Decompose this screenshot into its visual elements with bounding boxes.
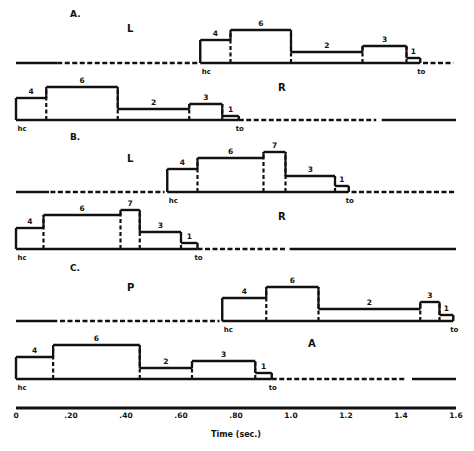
phase-label: 2 [163,357,168,366]
phase-label: 4 [242,287,247,296]
phase-label: 3 [308,165,313,174]
row-label: R [278,82,286,93]
row-label: A [308,338,316,349]
phase-label: 2 [324,41,329,50]
phase-label: 3 [427,291,432,300]
x-axis-title: Time (sec.) [211,430,261,439]
phase-label: 6 [228,147,233,156]
phase-label: 1 [444,304,449,313]
x-tick-label: 0 [13,411,18,420]
panel-title: B. [70,132,80,142]
panel-a: A.L46231hctoR46231hcto [16,9,456,133]
row-label: L [127,153,134,164]
chart-canvas: A.L46231hctoR46231hctoB.L46731hctoR46731… [0,0,474,451]
hc-label: hc [169,197,178,205]
x-axis-tick-labels: 0.20.40.60.801.01.21.41.6 [13,411,462,420]
phase-label: 4 [180,158,185,167]
phase-label: 1 [261,362,266,371]
x-axis: 0.20.40.60.801.01.21.41.6 Time (sec.) [13,408,462,439]
phase-label: 7 [128,199,133,208]
panel-title: A. [70,9,81,19]
phase-label: 1 [187,232,192,241]
row-r: R46231hcto [16,76,456,133]
x-tick-label: .80 [229,411,242,420]
hc-label: hc [202,68,211,76]
phase-label: 1 [411,47,416,56]
panel-b: B.L46731hctoR46731hcto [16,132,456,262]
phase-label: 2 [151,98,156,107]
row-a: A46231hcto [16,334,456,392]
to-label: to [346,197,354,205]
hc-label: hc [17,254,26,262]
phase-label: 6 [79,204,84,213]
hc-label: hc [224,326,233,334]
row-r: R46731hcto [16,199,456,262]
phase-label: 4 [213,29,218,38]
phase-label: 2 [367,298,372,307]
panel-title: C. [70,263,80,273]
phase-label: 3 [158,221,163,230]
phase-label: 6 [79,76,84,85]
x-tick-label: 1.2 [339,411,352,420]
row-label: P [127,282,134,293]
phase-label: 3 [221,350,226,359]
row-l: L46231hcto [16,19,453,76]
phase-label: 7 [272,141,277,150]
phase-label: 4 [32,346,37,355]
x-tick-label: 1.0 [284,411,297,420]
x-tick-label: .60 [174,411,187,420]
x-tick-label: .20 [64,411,77,420]
x-tick-label: 1.6 [449,411,462,420]
to-label: to [194,254,202,262]
panels: A.L46231hctoR46231hctoB.L46731hctoR46731… [16,9,459,392]
hc-label: hc [17,125,26,133]
gait-phase-chart: A.L46231hctoR46231hctoB.L46731hctoR46731… [0,0,474,451]
phase-label: 3 [203,93,208,102]
phase-label: 1 [339,175,344,184]
phase-label: 6 [94,334,99,343]
phase-label: 1 [228,105,233,114]
to-label: to [450,326,458,334]
panel-c: C.P46231hctoA46231hcto [16,263,459,392]
phase-label: 4 [27,217,32,226]
phase-label: 6 [290,276,295,285]
row-l: L46731hcto [16,141,456,205]
row-label: L [127,23,134,34]
row-label: R [278,211,286,222]
to-label: to [269,384,277,392]
hc-label: hc [17,384,26,392]
x-tick-label: .40 [119,411,132,420]
row-p: P46231hcto [16,276,459,334]
to-label: to [417,68,425,76]
phase-label: 6 [258,19,263,28]
to-label: to [236,125,244,133]
phase-label: 4 [29,87,34,96]
x-tick-label: 1.4 [394,411,407,420]
phase-label: 3 [382,35,387,44]
